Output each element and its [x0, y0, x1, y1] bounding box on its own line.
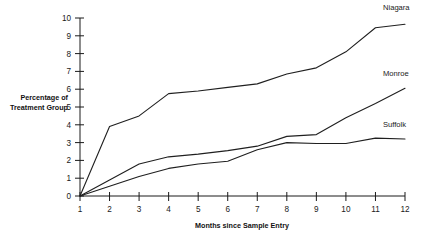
series-label-suffolk: Suffolk	[383, 120, 406, 129]
series-labels: NiagaraMonroeSuffolk	[383, 3, 410, 129]
x-axis-tick-labels: 123456789101112	[78, 205, 410, 214]
series-line-suffolk	[80, 138, 405, 196]
series-label-monroe: Monroe	[383, 69, 409, 78]
chart-canvas: 012345678910 123456789101112 NiagaraMonr…	[0, 0, 429, 234]
y-tick-label-2: 2	[66, 156, 71, 165]
y-tick-label-8: 8	[66, 50, 71, 59]
x-tick-label-4: 4	[166, 205, 171, 214]
x-tick-label-3: 3	[137, 205, 142, 214]
x-tick-label-5: 5	[196, 205, 201, 214]
x-tick-label-8: 8	[285, 205, 290, 214]
x-axis: 123456789101112	[78, 192, 410, 214]
x-tick-label-7: 7	[255, 205, 260, 214]
y-tick-label-0: 0	[66, 192, 71, 201]
x-tick-label-1: 1	[78, 205, 83, 214]
y-axis-title-line1: Percentage of	[20, 93, 68, 102]
y-tick-label-3: 3	[66, 139, 71, 148]
x-tick-label-10: 10	[341, 205, 351, 214]
x-tick-label-9: 9	[314, 205, 319, 214]
y-tick-label-4: 4	[66, 121, 71, 130]
x-tick-label-6: 6	[225, 205, 230, 214]
series-lines	[80, 24, 405, 196]
series-line-niagara	[80, 24, 405, 196]
series-label-niagara: Niagara	[383, 3, 410, 12]
x-tick-label-12: 12	[400, 205, 410, 214]
x-axis-title: Months since Sample Entry	[195, 221, 289, 230]
line-chart: 012345678910 123456789101112 NiagaraMonr…	[0, 0, 429, 234]
y-tick-label-9: 9	[66, 32, 71, 41]
y-tick-label-10: 10	[62, 14, 72, 23]
y-axis-title-line2: Treatment Group	[10, 103, 69, 112]
y-tick-label-1: 1	[66, 174, 71, 183]
x-tick-label-11: 11	[371, 205, 380, 214]
y-tick-label-7: 7	[66, 67, 71, 76]
x-tick-label-2: 2	[107, 205, 112, 214]
